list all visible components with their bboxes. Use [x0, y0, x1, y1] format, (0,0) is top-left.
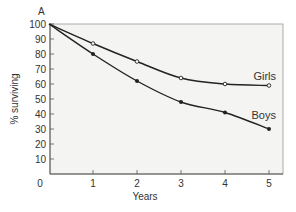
data-point-boys: [135, 79, 139, 83]
y-tick-label: 10: [35, 154, 47, 165]
data-point-boys: [179, 100, 183, 104]
x-axis-label: Years: [132, 191, 157, 202]
x-tick-label: 1: [90, 178, 96, 189]
y-tick-label: 60: [35, 79, 47, 90]
x-tick-label-0: 0: [37, 178, 43, 189]
data-point-boys: [91, 52, 95, 56]
y-tick-label: 20: [35, 139, 47, 150]
data-point-girls: [267, 84, 271, 88]
panel-label: A: [38, 6, 45, 17]
series-label-girls: Girls: [253, 70, 276, 82]
data-point-boys: [223, 111, 227, 115]
x-tick-label: 2: [134, 178, 140, 189]
y-tick-label: 40: [35, 109, 47, 120]
data-point-girls: [223, 82, 227, 86]
plot-area: [50, 24, 283, 174]
y-tick-label: 50: [35, 94, 47, 105]
data-point-boys: [267, 127, 271, 131]
data-point-girls: [91, 42, 95, 46]
y-tick-label: 80: [35, 49, 47, 60]
series-label-boys: Boys: [252, 109, 277, 121]
data-point-girls: [179, 76, 183, 80]
x-tick-label: 4: [222, 178, 228, 189]
y-tick-label: 30: [35, 124, 47, 135]
y-axis-label: % surviving: [9, 73, 20, 124]
x-tick-label: 5: [266, 178, 272, 189]
y-tick-label: 90: [35, 34, 47, 45]
x-tick-label: 3: [178, 178, 184, 189]
y-tick-label: 70: [35, 64, 47, 75]
data-point-girls: [135, 60, 139, 64]
survival-chart: 102030405060708090100 12345 GirlsBoys A …: [0, 0, 296, 212]
y-tick-label: 100: [29, 19, 46, 30]
